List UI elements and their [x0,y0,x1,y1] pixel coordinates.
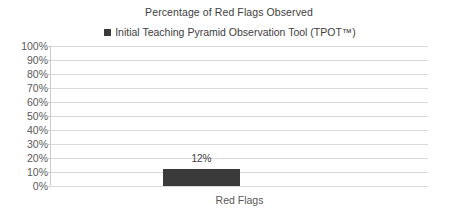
y-axis-tick-mark [46,46,50,47]
chart-legend: Initial Teaching Pyramid Observation Too… [0,27,458,38]
y-axis-tick-mark [46,88,50,89]
gridline [51,186,428,187]
y-axis-tick-label: 50% [4,110,48,121]
y-axis-tick-mark [46,116,50,117]
y-axis-tick-mark [46,102,50,103]
y-axis-tick-label: 80% [4,68,48,79]
y-axis-tick-mark [46,130,50,131]
plot-area: 12% [51,46,428,186]
y-axis-tick-mark [46,186,50,187]
y-axis-labels: 100%90%80%70%60%50%40%30%20%10%0% [0,0,48,210]
y-axis-tick-mark [46,74,50,75]
legend-item-label: Initial Teaching Pyramid Observation Too… [115,27,356,38]
legend-item[interactable]: Initial Teaching Pyramid Observation Too… [104,27,356,38]
gridline [51,88,428,89]
y-axis-tick-label: 100% [4,40,48,51]
y-axis-tick-label: 40% [4,124,48,135]
gridline [51,102,428,103]
y-axis-tick-label: 90% [4,54,48,65]
chart-title: Percentage of Red Flags Observed [0,6,458,18]
gridline [51,144,428,145]
gridline [51,130,428,131]
square-marker-icon [104,29,111,36]
x-axis-title: Red Flags [51,194,428,206]
gridline [51,158,428,159]
y-axis-tick-label: 30% [4,138,48,149]
y-axis-tick-mark [46,60,50,61]
bar[interactable] [163,169,240,186]
y-axis-tick-mark [46,172,50,173]
y-axis-tick-label: 60% [4,96,48,107]
y-axis-tick-label: 20% [4,152,48,163]
bar-chart: Percentage of Red Flags Observed Initial… [0,0,458,210]
gridline [51,74,428,75]
gridline [51,46,428,47]
y-axis-tick-label: 70% [4,82,48,93]
gridline [51,116,428,117]
y-axis-tick-label: 10% [4,166,48,177]
y-axis-tick-mark [46,158,50,159]
y-axis-tick-mark [46,144,50,145]
bar-value-label: 12% [191,153,211,164]
y-axis-tick-label: 0% [4,180,48,191]
gridline [51,60,428,61]
